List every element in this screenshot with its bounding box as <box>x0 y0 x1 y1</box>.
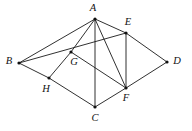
edges-layer <box>19 19 167 107</box>
edge-h-g <box>49 52 71 78</box>
vertices-layer <box>17 17 168 108</box>
edge-f-d <box>126 62 167 88</box>
edge-a-b <box>19 19 95 63</box>
geometry-figure-svg: ABCDEFGH <box>0 0 192 131</box>
vertex-point-d <box>165 60 168 63</box>
vertex-point-c <box>93 105 96 108</box>
edge-a-e <box>95 19 126 33</box>
vertex-point-g <box>69 50 72 53</box>
vertex-label-d: D <box>172 55 181 66</box>
edge-c-f <box>95 88 126 107</box>
vertex-point-a <box>93 17 96 20</box>
vertex-label-h: H <box>41 83 51 94</box>
vertex-label-g: G <box>70 56 78 67</box>
vertex-point-f <box>124 86 127 89</box>
vertex-point-h <box>47 76 50 79</box>
edge-b-h <box>19 63 49 78</box>
geometry-figure-container: ABCDEFGH <box>0 0 192 131</box>
vertex-label-e: E <box>124 16 132 27</box>
vertex-point-b <box>17 61 20 64</box>
edge-e-d <box>126 33 167 62</box>
vertex-label-b: B <box>6 55 13 66</box>
vertex-label-a: A <box>89 2 97 13</box>
edge-h-c <box>49 78 95 107</box>
vertex-label-c: C <box>91 112 99 123</box>
vertex-label-f: F <box>122 92 130 103</box>
vertex-point-e <box>124 31 127 34</box>
